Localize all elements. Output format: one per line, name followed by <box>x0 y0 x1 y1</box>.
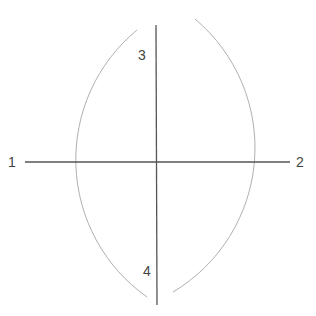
arc-from-point-1 <box>173 19 255 292</box>
label-point-4: 4 <box>143 263 151 279</box>
label-point-2: 2 <box>296 154 304 170</box>
construction-diagram: 1 2 3 4 <box>0 0 316 316</box>
arc-from-point-2 <box>76 30 147 297</box>
perpendicular-bisector <box>156 25 157 305</box>
label-point-1: 1 <box>8 154 16 170</box>
label-point-3: 3 <box>138 47 146 63</box>
